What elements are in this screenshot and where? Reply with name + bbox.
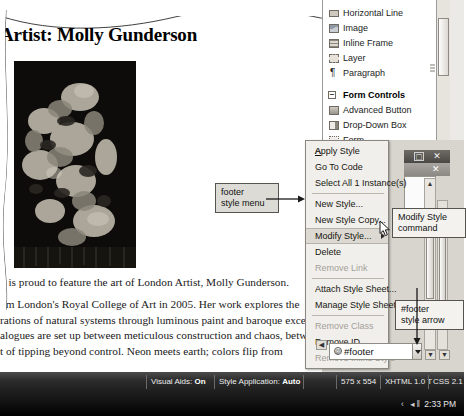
style-application-value: Auto xyxy=(282,377,300,386)
callout-arrow-footer-style-arrow xyxy=(412,288,424,346)
page-title: Artist: Molly Gunderson xyxy=(0,24,300,46)
menu-item-label: Remove Class xyxy=(315,321,374,331)
status-visual-aids[interactable]: Visual Aids: On xyxy=(146,375,206,389)
toolbox-item-label: Layer xyxy=(343,53,366,63)
callout-arrow-footer-style-menu xyxy=(266,194,306,204)
menu-item-remove-class: Remove Class xyxy=(306,318,388,334)
drop-down-box-icon xyxy=(329,121,339,130)
menu-item-new-style-copy[interactable]: New Style Copy... xyxy=(306,212,388,228)
menu-separator xyxy=(312,278,384,279)
menu-separator xyxy=(312,315,384,316)
menu-item-remove-link: Remove Link xyxy=(306,260,388,276)
footer-style-name: #footer xyxy=(344,346,374,357)
style-bar-scroll-right[interactable]: ▼ xyxy=(425,350,436,360)
panel-grip-icon[interactable] xyxy=(430,62,435,76)
menu-item-label: New Style... xyxy=(315,199,363,209)
body-paragraph: t of tipping beyond control. Neon meets … xyxy=(0,345,310,358)
chevron-down-icon xyxy=(415,350,421,354)
toolbox-item-label: Horizontal Line xyxy=(343,8,403,18)
menu-item-modify-style[interactable]: Modify Style... xyxy=(306,228,388,244)
callout-footer-style-arrow: #footer style arrow xyxy=(395,300,464,330)
toolbox-item-form[interactable]: Form xyxy=(323,133,437,140)
menu-item-label: Modify Style... xyxy=(315,231,372,241)
menu-item-manage-style-sheet-links[interactable]: Manage Style Sheet Links... xyxy=(306,297,388,313)
inline-frame-icon xyxy=(329,39,339,48)
close-icon[interactable]: ✕ xyxy=(432,152,442,161)
status-doctype: XHTML 1.0 T xyxy=(380,375,432,389)
menu-item-new-style[interactable]: New Style... xyxy=(306,196,388,212)
taskbar-clock[interactable]: 2:33 PM xyxy=(424,399,456,409)
toolbox-scrollbar[interactable] xyxy=(436,0,450,140)
status-spacer xyxy=(303,375,338,389)
toolbox-item-label: Advanced Button xyxy=(343,105,412,115)
body-paragraph: alogues are set up between meticulous co… xyxy=(0,329,310,342)
maximize-icon[interactable]: □ xyxy=(414,152,424,161)
toolbox-panel: Horizontal Line Image Inline Frame Layer… xyxy=(322,0,437,140)
toolbox-item-paragraph[interactable]: ¶ Paragraph xyxy=(323,66,437,81)
status-css-version: CSS 2.1 xyxy=(428,375,463,389)
paragraph-icon: ¶ xyxy=(330,67,340,79)
toolbox-item-layer[interactable]: Layer xyxy=(323,51,437,66)
menu-item-delete[interactable]: Delete xyxy=(306,244,388,260)
scroll-up-arrow-icon[interactable]: ▲ xyxy=(426,180,434,188)
toolbox-item-label: Drop-Down Box xyxy=(343,120,407,130)
menu-item-select-all-instances[interactable]: Select All 1 Instance(s) xyxy=(306,175,388,191)
panel-title-bar-active: □ ✕ xyxy=(404,150,450,163)
menu-item-label: Remove Link xyxy=(315,263,368,273)
style-at-icon: @ xyxy=(334,347,342,355)
toolbox-item-horizontal-line[interactable]: Horizontal Line xyxy=(323,6,437,21)
toolbox-scrollbar-thumb[interactable] xyxy=(438,18,449,76)
status-dimensions: 575 x 554 xyxy=(336,375,376,389)
menu-item-apply-style[interactable]: AApply Style xyxy=(306,143,388,159)
footer-style-selector[interactable]: @ #footer xyxy=(329,343,417,360)
close-icon[interactable]: ✕ xyxy=(432,165,440,173)
menu-item-label: Select All 1 Instance(s) xyxy=(315,178,407,188)
visual-aids-value: On xyxy=(194,377,205,386)
artwork-image xyxy=(14,61,136,268)
system-tray-icons[interactable]: ‹ ◂‖ xyxy=(401,399,422,409)
status-bar: Visual Aids: On Style Application: Auto … xyxy=(0,372,464,394)
image-icon xyxy=(329,24,339,33)
windows-taskbar: ‹ ◂‖ 2:33 PM xyxy=(0,394,464,416)
body-paragraph: rations of natural systems through lumin… xyxy=(0,314,310,327)
toolbox-group-label: Form Controls xyxy=(343,90,405,100)
layer-icon xyxy=(329,54,339,63)
collapse-expander-icon[interactable]: − xyxy=(328,91,336,99)
callout-modify-style-command: Modify Style command xyxy=(392,208,466,238)
toolbox-item-inline-frame[interactable]: Inline Frame xyxy=(323,36,437,51)
toolbox-item-image[interactable]: Image xyxy=(323,21,437,36)
menu-item-label: Delete xyxy=(315,247,341,257)
panel-title-bar-inactive: ✕ xyxy=(404,163,450,176)
advanced-button-icon xyxy=(329,106,339,115)
menu-separator xyxy=(312,193,384,194)
style-context-menu[interactable]: AApply Style Go To Code Select All 1 Ins… xyxy=(305,140,389,369)
menu-item-label: Go To Code xyxy=(315,162,363,172)
toolbox-item-label: Image xyxy=(343,23,368,33)
menu-item-label: New Style Copy... xyxy=(315,215,386,225)
body-paragraph: om London's Royal College of Art in 2005… xyxy=(0,298,310,311)
style-bar-overflow[interactable]: ▼ xyxy=(439,350,450,360)
toolbox-item-label: Inline Frame xyxy=(343,38,393,48)
menu-item-go-to-code[interactable]: Go To Code xyxy=(306,159,388,175)
toolbox-item-drop-down-box[interactable]: Drop-Down Box xyxy=(323,118,437,133)
document-body-text: y is proud to feature the art of London … xyxy=(0,276,310,360)
style-bar-scroll-left[interactable]: ◀ xyxy=(316,340,327,350)
toolbox-item-label: Paragraph xyxy=(343,68,385,78)
menu-item-attach-style-sheet[interactable]: Attach Style Sheet... xyxy=(306,281,388,297)
horizontal-line-icon xyxy=(329,10,339,17)
toolbox-item-advanced-button[interactable]: Advanced Button xyxy=(323,103,437,118)
mouse-cursor-icon xyxy=(379,220,391,237)
status-style-application[interactable]: Style Application: Auto xyxy=(214,375,300,389)
menu-item-label: Apply Style xyxy=(315,146,360,156)
body-paragraph: y is proud to feature the art of London … xyxy=(0,276,310,289)
torn-page-left-edge xyxy=(0,10,22,310)
menu-item-label: Attach Style Sheet... xyxy=(315,284,397,294)
toolbox-group-form-controls[interactable]: − Form Controls xyxy=(323,87,437,103)
